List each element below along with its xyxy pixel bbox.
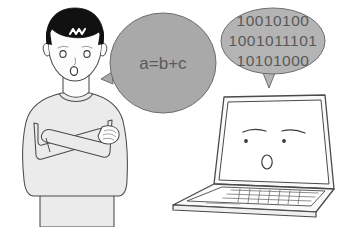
laptop-left-eye [244,139,248,143]
left-eye [60,51,66,58]
speech-bubble-label: a=b+c [139,54,187,73]
hand [98,126,119,144]
illustration-scene: a=b+c [0,0,348,227]
right-eye [84,51,90,58]
binary-line-1: 10010100 [237,12,310,29]
laptop-screen [219,100,329,184]
illustration-canvas: a=b+c [0,0,348,227]
binary-line-3: 10101000 [237,52,310,69]
mouth [70,67,77,76]
laptop-mouth [262,155,272,169]
binary-line-2: 1001011101 [229,32,318,49]
laptop-right-eye [282,139,286,143]
